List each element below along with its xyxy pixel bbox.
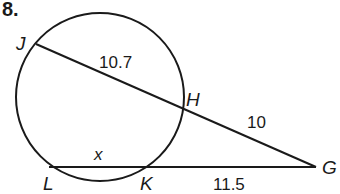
point-label-j: J (15, 33, 26, 54)
point-label-k: K (140, 173, 154, 194)
measure-lk: x (93, 145, 103, 164)
problem-number: 8. (2, 0, 19, 20)
measure-hg: 10 (247, 113, 266, 132)
measure-kg: 11.5 (213, 175, 245, 194)
point-label-l: L (43, 173, 54, 194)
point-label-h: H (186, 89, 200, 110)
measure-jh: 10.7 (99, 53, 132, 72)
point-label-g: G (322, 157, 337, 178)
secant-diagram: 8. J H G K L 10.7 10 x 11.5 (0, 0, 340, 194)
